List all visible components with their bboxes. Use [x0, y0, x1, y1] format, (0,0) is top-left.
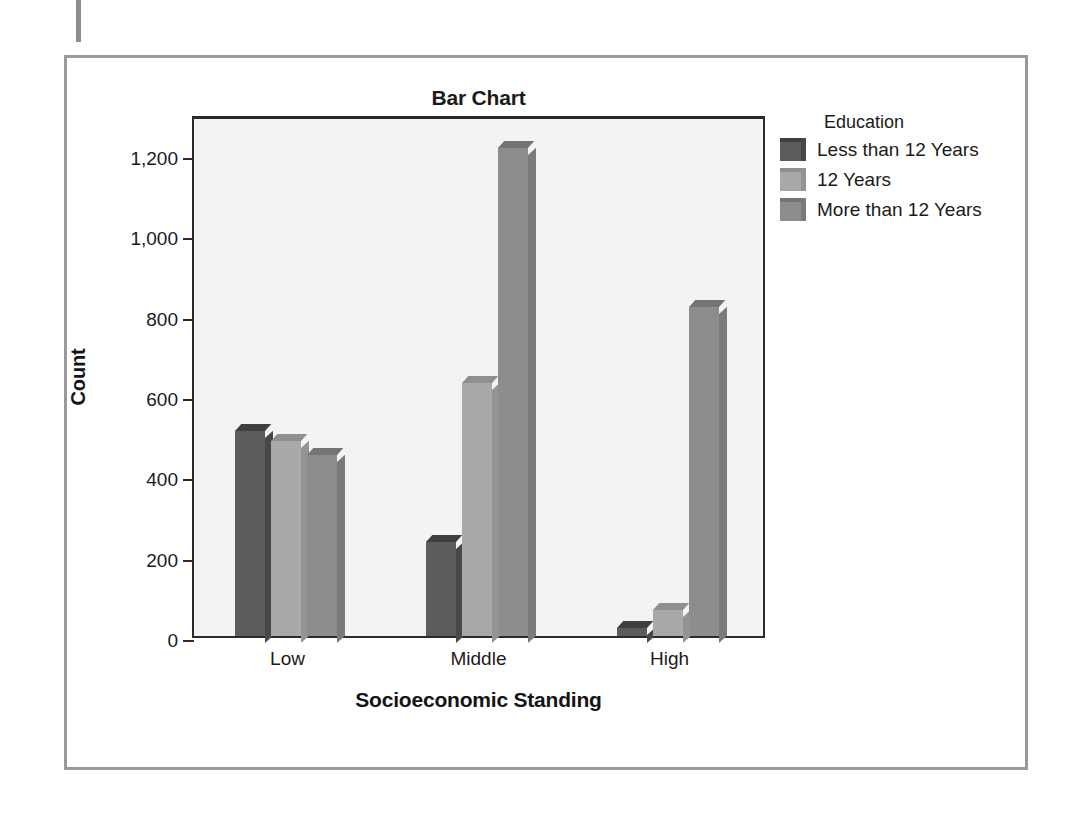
bar-side-face: [337, 455, 345, 643]
x-axis-title: Socioeconomic Standing: [192, 688, 765, 712]
legend-entry-label: 12 Years: [817, 169, 891, 191]
bar[interactable]: [689, 307, 719, 636]
x-axis-tick-label: Low: [270, 648, 305, 670]
y-axis-tick-label: 0: [167, 630, 178, 652]
bar-top-face: [498, 141, 534, 148]
legend-entry-label: Less than 12 Years: [817, 139, 979, 161]
legend-swatch-icon: [780, 198, 806, 221]
y-axis-tick: [183, 560, 194, 562]
legend-swatch-icon: [780, 138, 806, 161]
legend-swatch-side: [801, 168, 806, 191]
figure-page: Bar Chart Count 02004006008001,0001,200 …: [0, 0, 1078, 825]
page-corner-mark: [76, 0, 81, 42]
bar-top-face: [462, 376, 498, 383]
bar-front-face: [617, 628, 647, 636]
bar-side-face: [528, 148, 536, 643]
x-axis-tick-label: Middle: [451, 648, 507, 670]
bar-front-face: [689, 307, 719, 636]
y-axis-title: Count: [67, 349, 90, 406]
legend: Education Less than 12 Years12 YearsMore…: [780, 112, 1020, 228]
bar-front-face: [498, 148, 528, 636]
bar-top-face: [426, 535, 462, 542]
y-axis-tick-label: 400: [146, 469, 178, 491]
legend-entry-list: Less than 12 Years12 YearsMore than 12 Y…: [780, 138, 1020, 221]
bar-side-face: [719, 307, 727, 643]
bar[interactable]: [653, 610, 683, 636]
y-axis-tick-label: 1,200: [130, 148, 178, 170]
legend-entry[interactable]: 12 Years: [780, 168, 1020, 191]
legend-entry[interactable]: More than 12 Years: [780, 198, 1020, 221]
y-axis-tick: [183, 319, 194, 321]
bar-top-face: [307, 448, 343, 455]
y-axis-tick-label: 800: [146, 309, 178, 331]
bar-top-face: [653, 603, 689, 610]
y-axis-tick-label: 600: [146, 389, 178, 411]
y-axis-tick: [183, 399, 194, 401]
bar[interactable]: [426, 542, 456, 636]
bar-front-face: [653, 610, 683, 636]
bar-top-face: [617, 621, 653, 628]
y-axis-tick-label: 1,000: [130, 228, 178, 250]
bar-front-face: [271, 441, 301, 636]
bar[interactable]: [271, 441, 301, 636]
legend-swatch-icon: [780, 168, 806, 191]
bar[interactable]: [498, 148, 528, 636]
bar-front-face: [462, 383, 492, 636]
y-axis-tick: [183, 479, 194, 481]
bar-top-face: [235, 424, 271, 431]
y-axis-tick-label: 200: [146, 550, 178, 572]
legend-swatch-side: [801, 138, 806, 161]
bar-front-face: [307, 455, 337, 636]
x-axis-tick-label: High: [650, 648, 689, 670]
legend-entry-label: More than 12 Years: [817, 199, 982, 221]
y-axis-tick: [183, 640, 194, 642]
bar[interactable]: [307, 455, 337, 636]
plot-area: 02004006008001,0001,200: [192, 116, 765, 638]
y-axis-tick: [183, 158, 194, 160]
legend-title: Education: [824, 112, 1020, 133]
bar-front-face: [235, 431, 265, 636]
bar[interactable]: [462, 383, 492, 636]
y-axis-tick: [183, 238, 194, 240]
legend-entry[interactable]: Less than 12 Years: [780, 138, 1020, 161]
plot-inner: 02004006008001,0001,200: [194, 119, 763, 636]
legend-swatch-side: [801, 198, 806, 221]
bar-top-face: [689, 300, 725, 307]
bar[interactable]: [617, 628, 647, 636]
chart-title: Bar Chart: [192, 86, 765, 110]
bar-front-face: [426, 542, 456, 636]
bar-top-face: [271, 434, 307, 441]
bar[interactable]: [235, 431, 265, 636]
